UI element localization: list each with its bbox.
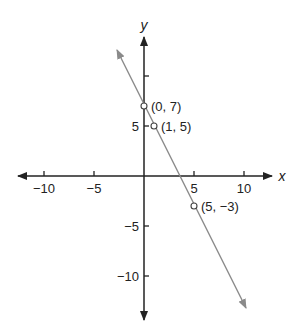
y-axis: 5 −5 −10 y [117, 17, 149, 320]
y-tick-label: −5 [124, 219, 139, 234]
x-tick-label: −10 [33, 181, 55, 196]
point-label: (5, −3) [201, 199, 239, 214]
point-label: (1, 5) [161, 119, 191, 134]
point-1-5: (1, 5) [151, 119, 191, 134]
x-tick-label: 10 [237, 181, 251, 196]
coordinate-plane: −10 −5 5 10 x 5 −5 −10 y (0, 7) (1, 5) (… [0, 0, 302, 328]
y-tick-label: 5 [132, 119, 139, 134]
point-0-7: (0, 7) [141, 99, 181, 114]
x-axis-label: x [278, 168, 287, 184]
point-label: (0, 7) [151, 99, 181, 114]
x-tick-label: 5 [190, 181, 197, 196]
x-axis: −10 −5 5 10 x [18, 168, 287, 196]
y-axis-label: y [140, 17, 149, 33]
x-tick-label: −5 [87, 181, 102, 196]
y-tick-label: −10 [117, 269, 139, 284]
